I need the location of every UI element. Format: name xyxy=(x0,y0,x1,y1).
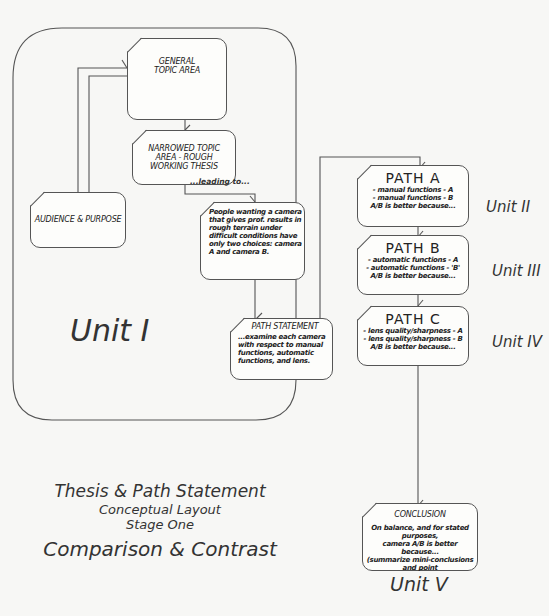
path-b-line: - automatic functions - 'B' xyxy=(358,264,468,272)
audience-purpose-box: AUDIENCE & PURPOSE xyxy=(30,192,126,248)
thesis-line: that gives prof. results in xyxy=(209,216,304,224)
caption-block: Thesis & Path Statement Conceptual Layou… xyxy=(15,480,305,566)
path-b-line: A/B is better because... xyxy=(358,272,468,280)
conclusion-line: camera A/B is better because... xyxy=(363,540,477,556)
narrowed-line3: WORKING THESIS xyxy=(133,162,235,171)
thesis-box: People wanting a camera that gives prof.… xyxy=(200,202,305,280)
path-statement-line: with respect to manual xyxy=(238,341,332,349)
path-a-box: PATH A - manual functions - A - manual f… xyxy=(357,165,469,227)
caption-type: Comparison & Contrast xyxy=(15,532,305,566)
path-statement-box: PATH STATEMENT ...examine each camera wi… xyxy=(230,318,333,380)
narrowed-line2: AREA - ROUGH xyxy=(133,153,235,162)
unit-2-label: Unit II xyxy=(486,198,530,216)
path-statement-line: ...examine each camera xyxy=(238,333,332,341)
path-a-title: PATH A xyxy=(358,170,468,186)
leading-to-label: ...leading to... xyxy=(190,177,250,186)
narrowed-line1: NARROWED TOPIC xyxy=(133,144,235,153)
thesis-line: only two choices: camera xyxy=(209,240,304,248)
caption-subtitle: Conceptual Layout xyxy=(15,502,305,517)
unit-4-label: Unit IV xyxy=(492,333,542,351)
caption-title: Thesis & Path Statement xyxy=(15,480,305,502)
unit-5-label: Unit V xyxy=(390,573,448,595)
conclusion-box: CONCLUSION On balance, and for stated pu… xyxy=(362,503,478,571)
unit-3-label: Unit III xyxy=(492,262,541,280)
path-c-title: PATH C xyxy=(358,311,468,327)
path-b-box: PATH B - automatic functions - A - autom… xyxy=(357,235,469,295)
path-a-line: - manual functions - A xyxy=(358,186,468,194)
caption-stage: Stage One xyxy=(15,517,305,532)
path-statement-title: PATH STATEMENT xyxy=(238,322,332,331)
conclusion-line: On balance, and for stated purposes, xyxy=(363,524,477,540)
path-statement-line: functions, automatic xyxy=(238,349,332,357)
path-c-line: A/B is better because... xyxy=(358,343,468,351)
path-c-line: - lens quality/sharpness - A xyxy=(358,327,468,335)
general-topic-box: GENERAL TOPIC AREA xyxy=(127,38,227,120)
path-statement-line: functions, and lens. xyxy=(238,357,332,365)
path-c-line: - lens quality/sharpness - B xyxy=(358,335,468,343)
conclusion-line: (summarize mini-conclusions and point xyxy=(363,556,477,572)
thesis-line: People wanting a camera xyxy=(209,208,304,216)
general-topic-line1: GENERAL xyxy=(128,57,226,66)
thesis-line: difficult conditions have xyxy=(209,232,304,240)
unit-1-label: Unit I xyxy=(70,313,149,348)
path-c-box: PATH C - lens quality/sharpness - A - le… xyxy=(357,306,469,366)
audience-label: AUDIENCE & PURPOSE xyxy=(31,215,125,224)
thesis-line: A and camera B. xyxy=(209,248,304,256)
path-a-line: A/B is better because... xyxy=(358,202,468,210)
path-b-line: - automatic functions - A xyxy=(358,256,468,264)
path-a-line: - manual functions - B xyxy=(358,194,468,202)
conclusion-title: CONCLUSION xyxy=(363,510,477,519)
general-topic-line2: TOPIC AREA xyxy=(128,66,226,75)
thesis-line: rough terrain under xyxy=(209,224,304,232)
path-b-title: PATH B xyxy=(358,240,468,256)
